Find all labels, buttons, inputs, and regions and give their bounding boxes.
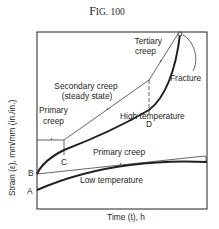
point-a-label: A	[27, 186, 33, 196]
low-primary-creep-endcap	[205, 156, 206, 161]
point-c-label: C	[61, 157, 67, 167]
fracture-leader	[183, 35, 196, 71]
primary-creep-high-label-2: creep	[43, 116, 64, 126]
primary-creep-high-label-1: Primary	[39, 105, 69, 115]
fracture-point	[178, 32, 182, 36]
fracture-label: Fracture	[170, 73, 202, 83]
secondary-creep-tick	[107, 108, 108, 110]
point-d-label: D	[146, 119, 152, 129]
tertiary-creep-label-2: creep	[135, 46, 156, 56]
primary-creep-low-label: Primary creep	[93, 147, 145, 157]
low-temperature-label: Low temperature	[80, 175, 143, 185]
figure-title: FIG. 100	[89, 4, 125, 18]
y-axis-label: Strain (ε), mm/mm (in./in.)	[7, 99, 17, 196]
x-axis-label: Time (t), h	[107, 212, 145, 222]
tertiary-creep-label-1: Tertiary	[135, 36, 163, 46]
secondary-creep-label-2: (steady state)	[62, 91, 113, 101]
high-temperature-label: High temperature	[120, 111, 185, 121]
point-b-label: B	[28, 168, 34, 178]
secondary-creep-label-1: Secondary creep	[54, 81, 118, 91]
creep-curve-diagram: FIG. 100 Strain (ε), mm/mm (in./in.) Tim…	[0, 0, 219, 229]
